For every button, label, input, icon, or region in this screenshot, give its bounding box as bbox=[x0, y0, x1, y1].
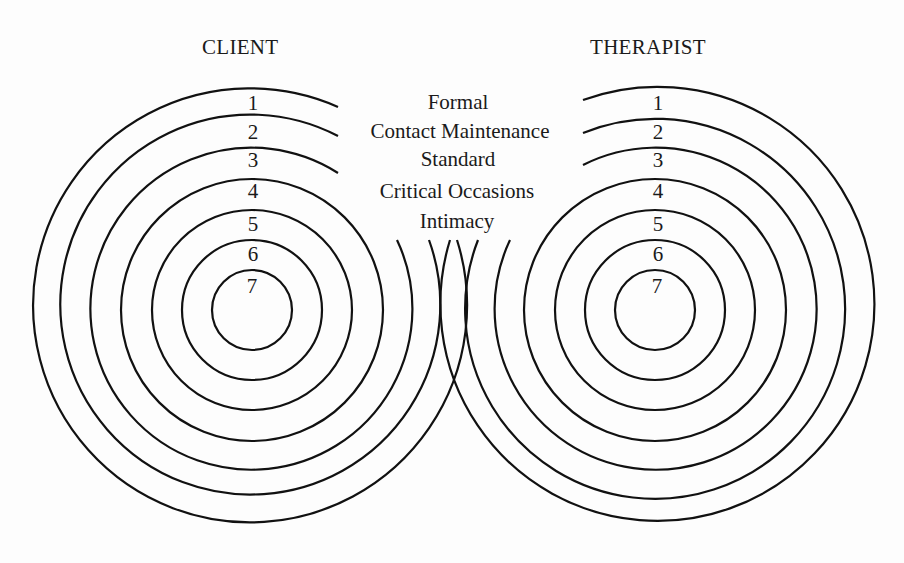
therapist-title: THERAPIST bbox=[590, 37, 706, 58]
therapist-level-number-5: 5 bbox=[653, 214, 664, 235]
diagram-canvas: CLIENT THERAPIST 1 2 3 4 5 6 7 1 2 3 4 5… bbox=[0, 0, 904, 563]
client-level-number-4: 4 bbox=[248, 181, 259, 202]
therapist-level-number-2: 2 bbox=[653, 122, 664, 143]
client-title: CLIENT bbox=[202, 37, 278, 58]
therapist-level-number-6: 6 bbox=[653, 244, 664, 265]
therapist-level-number-7: 7 bbox=[652, 276, 663, 297]
client-level-number-1: 1 bbox=[248, 93, 259, 114]
client-level-number-7: 7 bbox=[247, 276, 258, 297]
client-level-number-2: 2 bbox=[248, 122, 259, 143]
level-label-contact-maintenance: Contact Maintenance bbox=[370, 121, 549, 142]
client-level-number-3: 3 bbox=[248, 150, 259, 171]
level-label-formal: Formal bbox=[428, 92, 489, 113]
concentric-circles-diagram bbox=[0, 0, 904, 563]
level-label-standard: Standard bbox=[421, 149, 496, 170]
level-label-critical-occasions: Critical Occasions bbox=[380, 181, 535, 202]
therapist-level-number-3: 3 bbox=[653, 150, 664, 171]
level-label-intimacy: Intimacy bbox=[420, 211, 495, 232]
client-level-number-5: 5 bbox=[248, 214, 259, 235]
client-level-number-6: 6 bbox=[248, 244, 259, 265]
therapist-level-number-1: 1 bbox=[653, 93, 664, 114]
therapist-level-number-4: 4 bbox=[653, 181, 664, 202]
